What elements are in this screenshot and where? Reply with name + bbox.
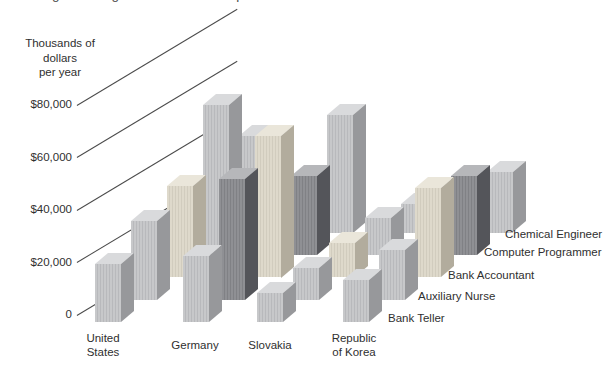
bar-republic-of-korea-computer-programmer-side-face: [477, 165, 490, 255]
bar-united-states-bank-teller-front-face: [95, 264, 121, 322]
country-label-line: of Korea: [306, 345, 402, 359]
bar-republic-of-korea-chemical-engineer-front-face: [487, 172, 513, 232]
bar-germany-chemical-engineer-side-face: [353, 104, 366, 233]
bar-germany-bank-accountant-side-face: [281, 125, 294, 278]
country-label-line: Slovakia: [222, 338, 318, 352]
country-label-united-states: UnitedStates: [55, 331, 151, 359]
y-tick--80-000: $80,000: [0, 98, 72, 110]
y-tick--20-000: $20,000: [0, 256, 72, 268]
bar-slovakia-bank-teller-front-face: [257, 293, 283, 322]
y-axis-title: Thousands of dollars per year: [10, 36, 110, 80]
bar-germany-auxiliary-nurse-side-face: [245, 168, 258, 300]
y-axis-title-line1: Thousands of: [10, 36, 110, 51]
bar-republic-of-korea-bank-accountant-front-face: [415, 188, 441, 277]
bar-republic-of-korea-bank-teller-side-face: [369, 269, 382, 322]
y-tick--60-000: $60,000: [0, 151, 72, 163]
bar-united-states-bank-teller-side-face: [121, 253, 134, 322]
bar-republic-of-korea-bank-accountant-side-face: [441, 177, 454, 277]
y-tick-0: 0: [0, 308, 72, 320]
bar-slovakia-auxiliary-nurse-front-face: [293, 268, 319, 300]
bar-germany-computer-programmer-side-face: [317, 165, 330, 255]
y-tick--40-000: $40,000: [0, 203, 72, 215]
country-label-line: States: [55, 345, 151, 359]
salary-3d-bar-chart: Average Earnings of Selected Occupations…: [0, 0, 609, 367]
country-label-line: United: [55, 331, 151, 345]
bar-republic-of-korea-auxiliary-nurse-front-face: [379, 250, 405, 300]
chart-title-clipped: Average Earnings of Selected Occupations…: [16, 0, 392, 2]
bar-germany-chemical-engineer-front-face: [327, 115, 353, 233]
bar-germany-bank-teller-side-face: [209, 245, 222, 322]
occupation-label-bank-accountant: Bank Accountant: [448, 269, 534, 281]
bar-germany-auxiliary-nurse-front-face: [219, 179, 245, 300]
bar-germany-bank-accountant-front-face: [255, 136, 281, 278]
country-label-slovakia: Slovakia: [222, 338, 318, 352]
country-label-republic-of-korea: Republicof Korea: [306, 331, 402, 359]
occupation-label-chemical-engineer: Chemical Engineer: [505, 228, 602, 240]
bar-germany-computer-programmer-front-face: [291, 176, 317, 255]
bar-republic-of-korea-chemical-engineer-side-face: [513, 161, 526, 232]
occupation-label-auxiliary-nurse: Auxiliary Nurse: [418, 290, 495, 302]
bar-republic-of-korea-bank-teller-front-face: [343, 280, 369, 322]
bar-united-states-auxiliary-nurse-front-face: [131, 221, 157, 300]
country-label-line: Republic: [306, 331, 402, 345]
bar-republic-of-korea-computer-programmer-front-face: [451, 176, 477, 255]
bar-united-states-auxiliary-nurse-side-face: [157, 210, 170, 300]
bar-republic-of-korea-auxiliary-nurse-side-face: [405, 239, 418, 300]
y-axis-title-line2: dollars: [10, 51, 110, 66]
occupation-label-computer-programmer: Computer Programmer: [484, 246, 602, 258]
bar-germany-bank-teller-front-face: [183, 256, 209, 322]
y-axis-title-line3: per year: [10, 65, 110, 80]
occupation-label-bank-teller: Bank Teller: [388, 312, 445, 324]
